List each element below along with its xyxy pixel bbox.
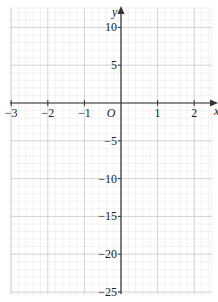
y-tick-label: −5: [104, 134, 117, 148]
y-tick-label: 10: [105, 20, 117, 34]
origin-label: O: [107, 106, 116, 120]
y-tick-label: −20: [98, 247, 117, 261]
x-axis-label: x: [213, 104, 218, 118]
y-tick-label: 5: [111, 58, 117, 72]
tick-labels: −3−2−112105−5−10−15−20−25xyO: [5, 5, 218, 299]
x-tick-label: −2: [41, 106, 54, 120]
y-tick-label: −10: [98, 172, 117, 186]
y-axis-label: y: [111, 5, 118, 19]
y-tick-label: −15: [98, 209, 117, 223]
y-axis-arrow-icon: [118, 6, 125, 14]
x-tick-label: 1: [155, 106, 161, 120]
graph-paper-chart: −3−2−112105−5−10−15−20−25xyO: [0, 0, 218, 302]
x-tick-label: 2: [191, 106, 197, 120]
y-tick-label: −25: [98, 285, 117, 299]
x-tick-label: −1: [78, 106, 91, 120]
x-tick-label: −3: [5, 106, 18, 120]
